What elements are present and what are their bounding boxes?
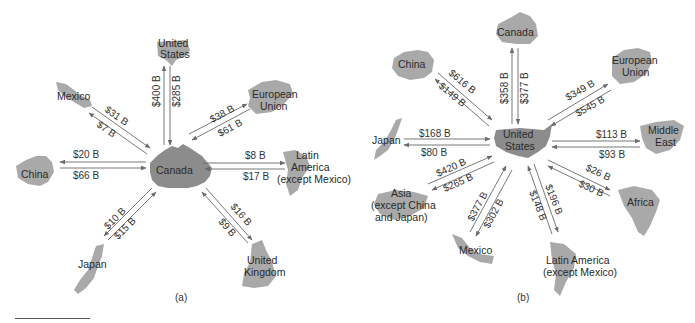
flow-value: $66 B bbox=[73, 170, 99, 181]
partner-label: Kingdom bbox=[244, 266, 286, 278]
partner-label: Latin America bbox=[546, 254, 610, 266]
flow-value: $377 B bbox=[519, 72, 530, 104]
partner-label: (except Mexico) bbox=[543, 266, 617, 278]
panel-a: Canada United States $400 B $285 B Europ… bbox=[16, 37, 351, 303]
partner-label: America bbox=[291, 161, 330, 173]
partner-label: Union bbox=[622, 66, 650, 78]
panel-caption-a: (a) bbox=[175, 292, 187, 303]
partner-label: China bbox=[21, 168, 49, 180]
footnote-rule bbox=[15, 318, 90, 319]
partner-label: China bbox=[398, 58, 426, 70]
panel-caption-b: (b) bbox=[517, 292, 529, 303]
partner-label: States bbox=[160, 48, 190, 60]
flow-value: $113 B bbox=[596, 129, 627, 140]
hub-label: States bbox=[505, 140, 535, 152]
flow-value: $9 B bbox=[217, 216, 239, 239]
partner-label: Japan bbox=[78, 258, 107, 270]
partner-label: Mexico bbox=[57, 90, 90, 102]
partner-label: (except Mexico) bbox=[277, 173, 351, 185]
africa-map-icon bbox=[618, 186, 660, 236]
flow-value: $8 B bbox=[245, 150, 266, 161]
flow-value: $168 B bbox=[419, 128, 451, 139]
partner-label: Mexico bbox=[459, 244, 492, 256]
flow-value: $20 B bbox=[73, 149, 99, 160]
partner-label: European bbox=[612, 54, 658, 66]
flow-value: $93 B bbox=[599, 149, 625, 160]
partner-label: and Japan) bbox=[375, 211, 428, 223]
flow-value: $358 B bbox=[499, 72, 510, 104]
partner-label: Japan bbox=[372, 134, 401, 146]
hub-label: United bbox=[503, 128, 534, 140]
partner-label: Latin bbox=[296, 149, 319, 161]
flow-value: $285 B bbox=[171, 75, 182, 107]
flow-value: $400 B bbox=[151, 75, 162, 107]
trade-flow-diagram: Canada United States $400 B $285 B Europ… bbox=[0, 0, 695, 323]
partner-label: Asia bbox=[391, 187, 412, 199]
flow-value: $7 B bbox=[95, 119, 118, 140]
partner-label: Africa bbox=[627, 196, 654, 208]
partner-label: United bbox=[247, 254, 278, 266]
partner-label: East bbox=[655, 136, 676, 148]
partner-label: Canada bbox=[497, 26, 534, 38]
hub-label-canada: Canada bbox=[156, 164, 193, 176]
panel-b: United States Canada $358 B $377 B Europ… bbox=[371, 12, 684, 303]
partner-label: (except China bbox=[371, 199, 436, 211]
partner-label: Union bbox=[260, 100, 288, 112]
flow-value: $17 B bbox=[243, 171, 269, 182]
flow-value: $80 B bbox=[421, 147, 447, 158]
partner-label: Middle bbox=[648, 124, 679, 136]
partner-label: European bbox=[252, 88, 298, 100]
